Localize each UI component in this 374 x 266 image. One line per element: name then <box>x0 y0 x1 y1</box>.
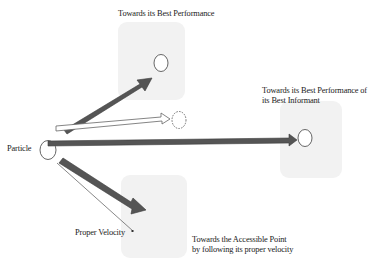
best-performance-circle <box>154 55 168 72</box>
arrow-to-best-informant <box>48 134 297 146</box>
next-position-dashed-circle <box>172 112 186 129</box>
particle-label: Particle <box>7 144 31 154</box>
best-informant-label-line1: Towards its Best Performance of <box>262 86 367 96</box>
pso-diagram <box>0 0 374 266</box>
accessible-point-label-line1: Towards the Accessible Point <box>192 235 287 245</box>
best-informant-label-line2: its Best Informant <box>262 96 320 106</box>
arrow-to-accessible-point <box>59 158 146 214</box>
best-informant-circle <box>298 130 312 147</box>
proper-velocity-label: Proper Velocity <box>75 228 125 238</box>
hollow-arrow-to-next-position <box>56 113 170 131</box>
proper-velocity-endpoint <box>132 230 134 232</box>
best-performance-label: Towards its Best Performance <box>118 9 214 19</box>
accessible-point-label-line2: by following its proper velocity <box>192 245 293 255</box>
